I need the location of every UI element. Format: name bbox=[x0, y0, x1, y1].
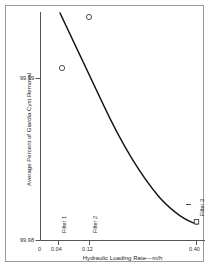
filter-1-label: Filter 1 bbox=[61, 216, 67, 233]
chart-figure: 99.99 99.98 0 0.04 0.12 0.40 Filter 1 Fi… bbox=[0, 0, 210, 268]
x-tick-label-0-12: 0.12 bbox=[82, 246, 93, 252]
removal-curve bbox=[60, 13, 197, 224]
data-point-filter-2 bbox=[86, 14, 91, 19]
x-axis-title: Hydraulic Loading Rate—m/h bbox=[40, 254, 205, 261]
y-tick-label-bottom: 99.98 bbox=[12, 237, 34, 243]
x-tick-label-0-40: 0.40 bbox=[189, 246, 200, 252]
data-point-filter-3 bbox=[194, 220, 198, 224]
filter-3-label: Filter 3 bbox=[199, 199, 205, 216]
plot-area bbox=[0, 0, 210, 268]
y-axis-title: Average Percent of Giardia Cyst Removal bbox=[25, 55, 32, 205]
data-point-filter-1 bbox=[59, 65, 64, 70]
x-tick-label-0: 0 bbox=[38, 246, 41, 252]
x-tick-label-0-04: 0.04 bbox=[51, 246, 62, 252]
filter-2-label: Filter 2 bbox=[92, 216, 98, 233]
